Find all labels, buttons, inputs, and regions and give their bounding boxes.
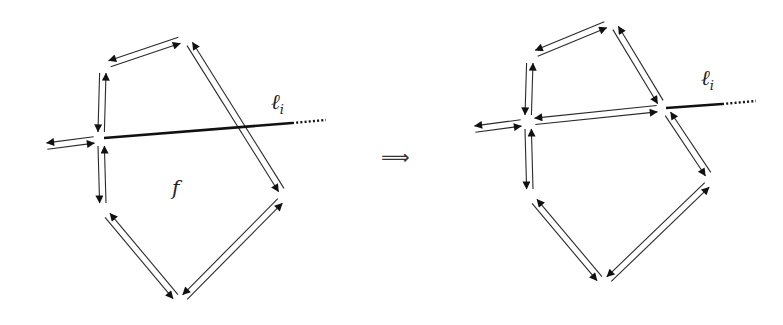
half-edge-twin <box>532 203 597 280</box>
line-label-left: ℓi <box>271 90 284 117</box>
implies-arrow: ⟹ <box>381 147 410 167</box>
half-edge <box>607 183 705 277</box>
half-edge <box>665 116 705 176</box>
half-edge <box>538 28 607 57</box>
half-edge <box>47 137 94 143</box>
line-label-subscript: i <box>710 78 714 93</box>
half-edge-twin <box>187 203 282 299</box>
half-edge-twin <box>47 143 94 149</box>
line-l-i <box>104 123 292 138</box>
half-edge <box>475 120 521 126</box>
half-edge <box>531 129 533 189</box>
line-label-subscript: i <box>280 102 284 117</box>
half-edge-twin <box>535 106 657 119</box>
line-l-i-continuation <box>722 101 756 104</box>
half-edge-twin <box>109 37 179 61</box>
half-edge <box>187 46 279 192</box>
half-edge <box>183 199 278 295</box>
right-diagram <box>475 22 756 282</box>
line-label-right: ℓi <box>701 66 714 93</box>
half-edge-twin <box>525 63 527 115</box>
half-edge <box>535 112 657 125</box>
half-edge-twin <box>98 73 100 132</box>
line-label-main: ℓ <box>701 66 710 90</box>
half-edge-twin <box>475 126 521 132</box>
half-edge <box>111 43 181 67</box>
face-label-f: f <box>172 176 179 200</box>
half-edge <box>613 30 658 104</box>
line-l-i-continuation <box>292 120 326 123</box>
half-edge <box>537 199 602 276</box>
half-edge-twin <box>611 187 709 281</box>
half-edge <box>110 213 178 294</box>
line-l-i <box>666 104 722 108</box>
left-diagram <box>47 37 326 299</box>
half-edge <box>104 146 106 203</box>
half-edge-twin <box>105 217 173 298</box>
half-edge <box>531 63 533 115</box>
line-label-main: ℓ <box>271 90 280 114</box>
half-edge-twin <box>535 22 604 51</box>
half-edge-twin <box>671 112 711 172</box>
half-edge-twin <box>525 129 527 189</box>
half-edge-twin <box>618 26 663 100</box>
half-edge-twin <box>98 146 100 203</box>
half-edge <box>104 73 106 132</box>
